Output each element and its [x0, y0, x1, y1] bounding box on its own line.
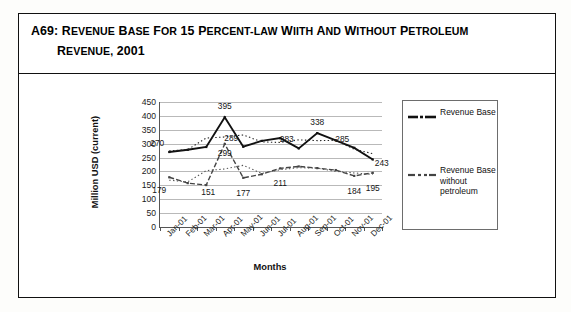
legend-label: Revenue Base without petroleum	[440, 165, 496, 197]
data-label: 177	[236, 188, 250, 198]
y-axis-title: Million USD (current)	[90, 97, 100, 227]
series-marker	[372, 172, 374, 174]
data-label: 151	[201, 187, 215, 197]
legend-dashed-line-icon	[408, 166, 436, 176]
series-marker	[187, 182, 189, 184]
y-axis-tick-label: 100	[142, 194, 156, 204]
data-label: 211	[274, 178, 287, 188]
y-axis-tick-label: 50	[146, 208, 156, 218]
data-label: 184	[347, 186, 361, 196]
chart-legend: Revenue Base Revenue Base without petrol…	[402, 100, 498, 230]
series-marker	[261, 140, 263, 142]
figure-caption-cell: A69: REVENUE BASE FOR 15 PERCENT-LAW WII…	[19, 14, 555, 74]
series-trend-line	[169, 165, 373, 181]
scanned-page: A69: REVENUE BASE FOR 15 PERCENT-LAW WII…	[0, 0, 571, 312]
series-marker	[353, 175, 355, 177]
series-line	[169, 144, 373, 185]
x-axis-tick	[160, 227, 161, 231]
y-axis-tick-label: 450	[142, 97, 156, 107]
chart-container: Million USD (current) 050100150200250300…	[19, 74, 555, 297]
series-marker	[242, 177, 244, 179]
legend-solid-line-icon	[408, 108, 436, 118]
series-marker	[298, 165, 300, 167]
caption-line-1-text: REVENUE BASE FOR 15 PERCENT-LAW WIITH AN…	[62, 24, 469, 38]
series-marker	[205, 184, 207, 186]
caption-line-2-text: REVENUE, 2001	[57, 44, 145, 58]
chart-plot-wrapper: Million USD (current) 050100150200250300…	[119, 102, 389, 272]
legend-label: Revenue Base	[440, 107, 496, 118]
caption-line-1: A69: REVENUE BASE FOR 15 PERCENT-LAW WII…	[31, 21, 545, 41]
series-marker	[224, 116, 226, 118]
data-label: 283	[280, 134, 294, 144]
data-label: 338	[310, 117, 324, 127]
figure-frame: A69: REVENUE BASE FOR 15 PERCENT-LAW WII…	[18, 13, 556, 298]
series-lines	[160, 102, 382, 227]
data-label: 289	[224, 133, 238, 143]
series-marker	[316, 132, 318, 134]
data-label: 285	[335, 134, 349, 144]
caption-number: A69:	[31, 24, 58, 38]
legend-item-revenue-base: Revenue Base	[408, 107, 496, 118]
data-label: 195	[366, 183, 380, 193]
series-marker	[372, 158, 374, 160]
data-label: 395	[218, 101, 232, 111]
series-marker	[224, 143, 226, 145]
data-label: 243	[375, 158, 389, 168]
page-title: A69: REVENUE BASE FOR 15 PERCENT-LAW WII…	[31, 21, 545, 61]
y-axis-tick-label: 0	[151, 222, 156, 232]
series-marker	[261, 173, 263, 175]
y-axis-tick-label: 350	[142, 125, 156, 135]
series-marker	[205, 146, 207, 148]
plot-area: 050100150200250300350400450 Jan-01Feb-01…	[159, 102, 382, 228]
legend-item-revenue-base-without-petroleum: Revenue Base without petroleum	[408, 165, 496, 197]
series-marker	[298, 147, 300, 149]
y-axis-tick-label: 250	[142, 153, 156, 163]
caption-line-2: REVENUE, 2001	[31, 41, 545, 61]
data-label: 299	[218, 148, 232, 158]
series-marker	[168, 176, 170, 178]
data-label: 270	[150, 138, 164, 148]
x-axis-title: Months	[159, 262, 381, 272]
series-marker	[242, 146, 244, 148]
series-marker	[279, 167, 281, 169]
y-axis-tick-label: 400	[142, 111, 156, 121]
data-label: 179	[152, 185, 166, 195]
y-axis-tick-label: 200	[142, 166, 156, 176]
